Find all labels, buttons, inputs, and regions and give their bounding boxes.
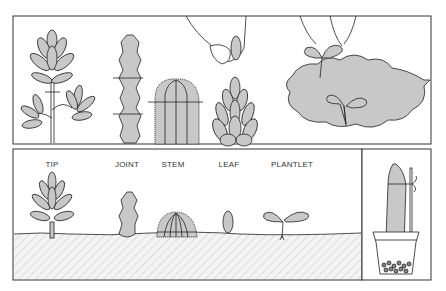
label-stem: STEM [143,160,203,169]
joint-cutting [119,192,138,237]
soil-bed [14,232,361,279]
leaf-cutting [223,211,233,233]
label-plantlet: PLANTLET [262,160,322,169]
label-tip: TIP [22,160,82,169]
propagation-diagram [0,0,446,291]
label-leaf: LEAF [199,160,259,169]
